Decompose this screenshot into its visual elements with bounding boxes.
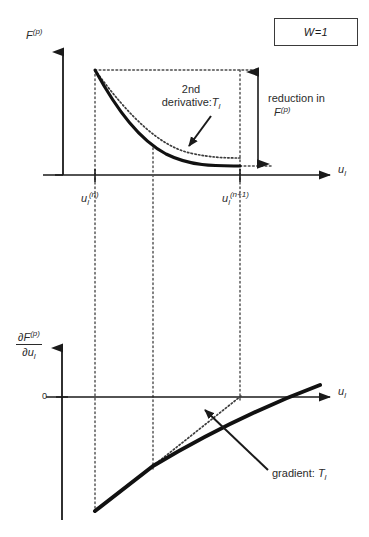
upper-x-axis-label: ul [338,163,346,178]
figure-svg [0,0,369,537]
xtick-un1-sup: (n+1) [230,190,249,199]
xtick-un1-sub: l [228,198,230,207]
gradient-annotation: gradient: Tl [272,467,326,482]
reduction-annotation: reduction in F(p) [268,92,325,119]
xtick-un-sup: (n) [89,190,99,199]
second-derivative-line2: derivative: [162,96,212,108]
lower-y-axis-denominator: ∂ul [16,345,42,361]
lower-y-den-sub: l [34,352,36,361]
lower-y-axis-label: ∂F(p) ∂ul [16,329,42,362]
second-derivative-line1: 2nd [182,83,200,95]
upper-x-axis-label-sub: l [344,169,346,178]
upper-y-axis-label-base: F [26,29,33,41]
gradient-symbol-sub: l [325,473,327,482]
lower-gradient-curve-solid [95,385,320,511]
lower-x-axis-label: ul [338,385,346,400]
lower-plot [46,348,330,520]
lower-y-axis-numerator: ∂F(p) [16,329,42,345]
upper-y-axis-label: F(p) [26,27,43,41]
lower-x-axis-label-sub: l [344,391,346,400]
second-derivative-symbol: T [212,96,219,108]
lower-zero-tick-label: 0 [42,391,47,401]
second-derivative-annotation: 2nd derivative:Tl [150,83,232,111]
w-equals-one-box: W=1 [274,18,358,46]
lower-y-den-base: ∂u [22,346,34,358]
figure-canvas: W=1 F(p) ul 2nd derivative:Tl reduction … [0,0,369,537]
upper-plot [43,52,330,512]
gradient-label-text: gradient: [272,467,315,479]
gradient-symbol: T [318,467,325,479]
w-equals-one-label: W=1 [304,26,328,38]
lower-y-num-sup: (p) [30,329,40,338]
second-derivative-symbol-sub: l [219,102,221,111]
lower-y-num-base: ∂F [18,331,30,343]
reduction-line1: reduction in [268,92,325,104]
second-derivative-pointer-arrow [189,116,211,146]
xtick-un-sub: l [87,198,89,207]
upper-xtick-label-un1: ul(n+1) [222,190,249,207]
reduction-line2-sup: (p) [281,105,291,114]
upper-xtick-label-un: ul(n) [81,190,99,207]
upper-y-axis-label-sup: (p) [33,27,43,36]
reduction-line2-base: F [274,106,281,118]
